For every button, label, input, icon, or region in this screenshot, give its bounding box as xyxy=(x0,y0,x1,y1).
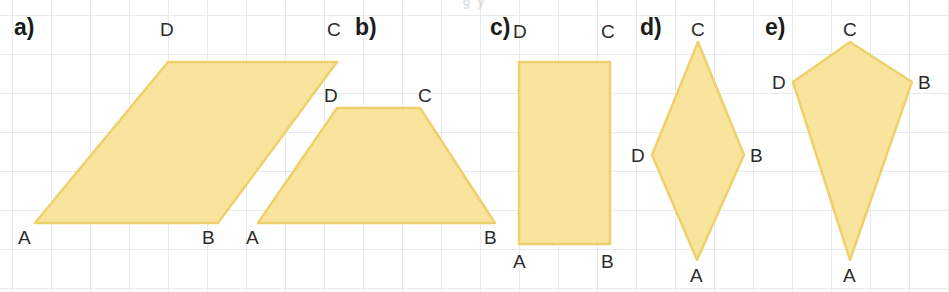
vertex-label-b-b: B xyxy=(484,228,497,247)
section-label-d: d) xyxy=(640,16,662,39)
vertex-label-c-a: A xyxy=(513,252,526,271)
vertex-label-e-d: D xyxy=(772,73,786,92)
vertex-label-e-c: C xyxy=(843,20,857,39)
shape-d-rhombus xyxy=(652,42,744,260)
shape-b-trapezoid xyxy=(258,108,495,223)
shape-c-rectangle xyxy=(519,62,610,244)
vertex-label-d-d: D xyxy=(631,146,645,165)
vertex-label-a-b: B xyxy=(202,228,215,247)
shape-layer xyxy=(0,0,949,292)
vertex-label-e-b: B xyxy=(918,73,931,92)
vertex-label-d-b: B xyxy=(750,146,763,165)
vertex-label-b-a: A xyxy=(246,228,259,247)
vertex-label-c-b: B xyxy=(601,252,614,271)
vertex-label-d-a: A xyxy=(690,266,703,285)
vertex-label-c-d: D xyxy=(513,22,527,41)
vertex-label-a-a: A xyxy=(18,228,31,247)
vertex-label-b-c: C xyxy=(418,86,432,105)
shape-e-kite xyxy=(793,42,912,260)
section-label-e: e) xyxy=(765,16,785,39)
section-label-c: c) xyxy=(490,16,510,39)
vertex-label-d-c: C xyxy=(691,20,705,39)
vertex-label-e-a: A xyxy=(843,266,856,285)
vertex-label-b-d: D xyxy=(324,86,338,105)
section-label-a: a) xyxy=(14,16,34,39)
vertex-label-a-d: D xyxy=(160,20,174,39)
vertex-label-a-c: C xyxy=(327,20,341,39)
geometry-figure: g y a)ABCDb)ABCDc)ABCDd)ABCDe)ABCD xyxy=(0,0,949,292)
section-label-b: b) xyxy=(355,16,377,39)
vertex-label-c-c: C xyxy=(601,22,615,41)
